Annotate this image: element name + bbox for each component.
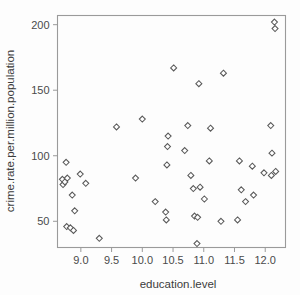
y-axis-label: crime.rate.per.million.population <box>4 50 16 212</box>
x-tick-label: 11.0 <box>193 254 214 266</box>
y-tick-label: 50 <box>37 215 49 227</box>
y-tick-label: 100 <box>31 150 49 162</box>
x-tick-label: 12.0 <box>255 254 276 266</box>
x-axis-label: education.level <box>140 278 217 290</box>
scatter-plot-figure: 9.09.510.010.511.011.512.0 50100150200 e… <box>0 0 300 295</box>
x-tick-label: 9.5 <box>104 254 119 266</box>
y-tick-label: 150 <box>31 84 49 96</box>
plot-canvas: 9.09.510.010.511.011.512.0 50100150200 e… <box>0 0 300 295</box>
x-tick-label: 11.5 <box>224 254 245 266</box>
figure-background <box>0 0 300 295</box>
x-tick-label: 10.0 <box>132 254 153 266</box>
x-tick-label: 9.0 <box>73 254 88 266</box>
y-tick-label: 200 <box>31 19 49 31</box>
x-tick-label: 10.5 <box>162 254 183 266</box>
